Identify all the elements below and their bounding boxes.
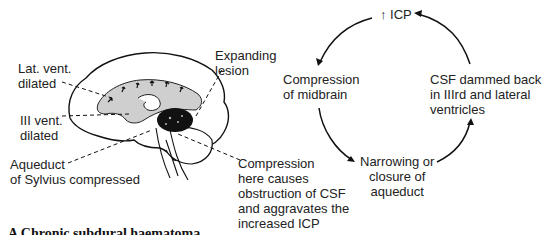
label-aqueduct: Aqueduct of Sylvius compressed [10, 157, 140, 187]
lesion-mass [157, 108, 193, 132]
cycle-node-csf-dammed: CSF dammed back in IIIrd and lateral ven… [430, 72, 541, 117]
figure-caption: A Chronic subdural haematoma [8, 226, 200, 235]
label-compression-note: Compression here causes obstruction of C… [238, 156, 349, 231]
label-iii-vent: III vent. dilated [20, 113, 63, 143]
cycle-node-compression-midbrain: Compression of midbrain [283, 72, 360, 102]
cycle-node-icp: ↑ ICP [380, 7, 412, 22]
label-expanding-lesion: Expanding lesion [215, 48, 276, 78]
cycle-node-narrowing-aqueduct: Narrowing or closure of aqueduct [360, 154, 434, 199]
label-lat-vent: Lat. vent. dilated [18, 61, 71, 91]
